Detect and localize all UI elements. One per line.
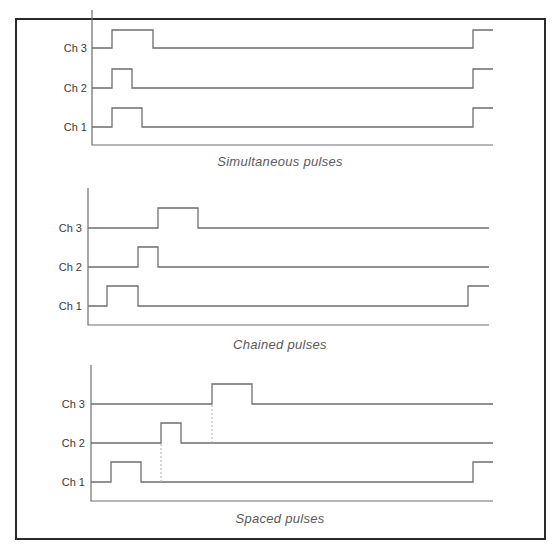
caption-chained-pulses: Chained pulses bbox=[233, 337, 327, 352]
signal-ch3 bbox=[92, 30, 493, 48]
signal-ch3 bbox=[88, 208, 489, 228]
signal-ch3 bbox=[91, 384, 493, 404]
panel-simultaneous-graph bbox=[92, 10, 493, 145]
panel-spaced: Ch 3 Ch 2 Ch 1 Spaced pulses bbox=[62, 365, 493, 526]
panel-chained-graph bbox=[88, 188, 489, 325]
signal-ch1 bbox=[92, 108, 493, 127]
caption-spaced-pulses: Spaced pulses bbox=[235, 511, 324, 526]
ch3-label: Ch 3 bbox=[59, 222, 82, 234]
ch3-label: Ch 3 bbox=[62, 398, 85, 410]
signal-ch2 bbox=[92, 69, 493, 88]
signal-ch2 bbox=[88, 247, 489, 267]
ch2-label: Ch 2 bbox=[62, 437, 85, 449]
signal-ch1 bbox=[88, 286, 489, 306]
ch3-label: Ch 3 bbox=[64, 42, 87, 54]
caption-simultaneous-pulses: Simultaneous pulses bbox=[217, 154, 343, 169]
ch2-label: Ch 2 bbox=[59, 261, 82, 273]
ch1-label: Ch 1 bbox=[62, 476, 85, 488]
signal-ch1 bbox=[91, 462, 493, 482]
panel-simultaneous: Ch 3 Ch 2 Ch 1 Simultaneous pulses bbox=[64, 10, 493, 169]
pulse-timing-diagram: Ch 3 Ch 2 Ch 1 Simultaneous pulses Ch 3 … bbox=[0, 0, 559, 558]
panel-chained: Ch 3 Ch 2 Ch 1 Chained pulses bbox=[59, 188, 489, 352]
ch2-label: Ch 2 bbox=[64, 82, 87, 94]
ch1-label: Ch 1 bbox=[64, 121, 87, 133]
diagram-frame bbox=[16, 19, 545, 539]
axis-lines bbox=[88, 188, 489, 325]
panel-spaced-graph bbox=[91, 365, 493, 501]
axis-lines bbox=[91, 365, 493, 501]
ch1-label: Ch 1 bbox=[59, 300, 82, 312]
signal-ch2 bbox=[91, 423, 493, 443]
